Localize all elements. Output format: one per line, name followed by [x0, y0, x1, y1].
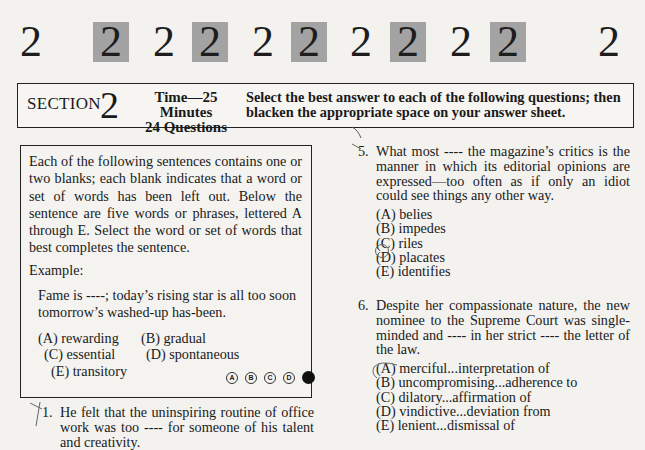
bubble-a: A: [226, 372, 238, 384]
bubble-d: D: [283, 372, 295, 384]
banner-digit: 2: [20, 22, 42, 62]
example-choice-b: (B) gradual: [141, 330, 206, 347]
pencil-mark-icon: [350, 126, 364, 140]
bubble-c: C: [264, 372, 276, 384]
example-choice-a: (A) rewarding: [38, 330, 119, 347]
banner-digit-boxed: 2: [490, 22, 526, 62]
question-text: Despite her compassionate nature, the ne…: [376, 298, 630, 357]
choice-e[interactable]: (E) lenient...dismissal of: [376, 418, 630, 432]
banner-digit-boxed: 2: [390, 22, 426, 62]
question-1: 1. He felt that the uninspiring routine …: [42, 405, 314, 449]
section-timing: Time—25 Minutes 24 Questions: [131, 90, 241, 135]
choice-c[interactable]: (C) dilatory...affirmation of: [376, 390, 630, 404]
question-5: 5. What most ---- the magazine’s critics…: [358, 144, 630, 279]
example-label: Example:: [29, 262, 302, 279]
answer-choices: (A) merciful...interpretation of (B) unc…: [376, 361, 630, 432]
banner-digit: 2: [153, 22, 175, 62]
question-text: He felt that the uninspiring routine of …: [60, 405, 314, 449]
section-instructions: Select the best answer to each of the fo…: [246, 90, 631, 120]
circled-answer-icon: [374, 243, 390, 259]
choice-b[interactable]: (B) impedes: [376, 221, 630, 235]
pencil-slash-icon: [28, 400, 44, 428]
choice-d[interactable]: (D) placates: [376, 250, 630, 264]
section-header: SECTION 2 Time—25 Minutes 24 Questions S…: [17, 83, 634, 128]
pencil-slash-icon: [351, 142, 363, 156]
question-text: What most ---- the magazine’s critics is…: [376, 144, 630, 203]
example-sentence: Fame is ----; today’s rising star is all…: [29, 287, 302, 322]
banner-digit: 2: [450, 22, 472, 62]
directions-text: Each of the following sentences contains…: [29, 153, 302, 257]
bubble-b: B: [245, 372, 257, 384]
example-answer-bubbles: A B C D: [226, 371, 315, 384]
question-number: 6.: [358, 298, 369, 313]
banner-digit-boxed: 2: [291, 22, 327, 62]
section-number: 2: [100, 83, 119, 127]
choice-a[interactable]: (A) merciful...interpretation of: [376, 361, 630, 375]
banner-digit-boxed: 2: [93, 22, 129, 62]
choice-d[interactable]: (D) vindictive...deviation from: [376, 404, 630, 418]
question-count: 24 Questions: [131, 120, 241, 135]
choice-b[interactable]: (B) uncompromising...adherence to: [376, 375, 630, 389]
circled-answer-icon: [370, 361, 400, 379]
banner-digit: 2: [598, 22, 620, 62]
example-choice-e: (E) transitory: [51, 363, 127, 380]
choice-c[interactable]: (C) riles: [376, 236, 630, 250]
banner-digit: 2: [350, 22, 372, 62]
section-label: SECTION: [27, 94, 101, 114]
section-number-banner: 2 2 2 2 2 2 2 2 2 2 2: [0, 22, 645, 62]
banner-digit: 2: [252, 22, 274, 62]
choice-e[interactable]: (E) identifies: [376, 264, 630, 278]
example-choice-d: (D) spontaneous: [146, 346, 239, 363]
banner-digit-boxed: 2: [192, 22, 228, 62]
directions-box: Each of the following sentences contains…: [20, 145, 312, 398]
choice-a[interactable]: (A) belies: [376, 207, 630, 221]
time-limit: Time—25 Minutes: [131, 90, 241, 120]
answer-choices: (A) belies (B) impedes (C) riles (D) pla…: [376, 207, 630, 278]
example-choice-c: (C) essential: [44, 346, 115, 363]
bubble-e-filled: [302, 371, 315, 384]
